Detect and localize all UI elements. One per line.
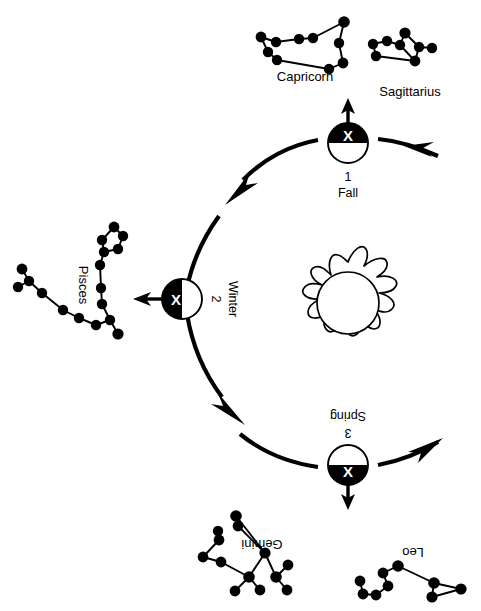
pisces-label: Pisces <box>76 266 91 305</box>
pisces-stars <box>13 222 128 340</box>
fall-x-marker: X <box>343 127 353 144</box>
sun-core <box>317 272 379 334</box>
earth-position-fall: X 1 Fall <box>328 98 368 200</box>
fall-season-label: Fall <box>338 186 358 200</box>
winter-number: 2 <box>209 296 223 303</box>
constellation-gemini: Gemini <box>198 510 294 596</box>
earth-position-spring: X 3 Spring <box>328 409 368 510</box>
earth-position-winter: X 2 Winter <box>133 279 240 319</box>
spring-x-marker: X <box>343 463 353 480</box>
constellation-leo: Leo <box>355 545 467 603</box>
leo-label: Leo <box>402 545 424 560</box>
orbit-arrowhead-bottom-right <box>408 438 443 463</box>
orbit-arc-left-lower <box>187 314 222 397</box>
spring-number: 3 <box>344 426 351 440</box>
orbit-seasons-diagram: X 1 Fall X 2 Winter X 3 Spring <box>0 0 481 611</box>
orbit-arc-bottom-left <box>240 434 318 467</box>
fall-number: 1 <box>345 170 352 184</box>
orbit-arc-upper-left <box>243 140 318 180</box>
orbit-arrowhead-upper-left <box>225 172 258 205</box>
constellation-capricorn: Capricorn <box>256 16 350 84</box>
constellation-pisces: Pisces <box>13 222 128 340</box>
sagittarius-label: Sagittarius <box>379 84 441 99</box>
gemini-label: Gemini <box>241 537 282 552</box>
sun <box>303 247 397 336</box>
leo-stars <box>355 560 467 602</box>
constellation-sagittarius: Sagittarius <box>368 27 441 99</box>
winter-season-label: Winter <box>226 281 240 317</box>
winter-x-marker: X <box>171 291 181 308</box>
capricorn-label: Capricorn <box>277 69 333 84</box>
diagram-canvas: X 1 Fall X 2 Winter X 3 Spring <box>0 0 481 611</box>
spring-season-label: Spring <box>330 409 366 423</box>
orbit-arc-left-upper <box>187 216 219 288</box>
orbit-arrowhead-lower-left <box>211 393 245 425</box>
gemini-stars <box>198 510 294 596</box>
